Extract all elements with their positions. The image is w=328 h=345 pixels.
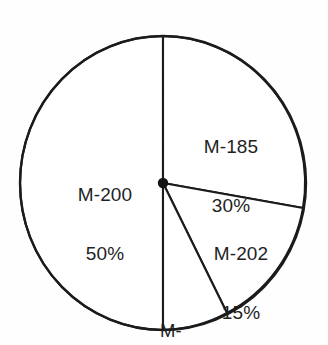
pie-center-hub-dot [158,178,168,188]
pie-chart-svg [0,0,328,345]
pie-slice-m200[interactable] [20,36,163,330]
pie-chart-figure: M-185 30% M-200 50% M-202 15% M- 103 5% [0,0,328,345]
pie-slice-m185[interactable] [163,36,305,208]
